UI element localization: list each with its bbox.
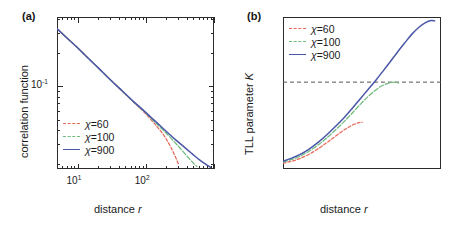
- axis-tick: [57, 97, 60, 98]
- panel-b-xaxis-title-var: r: [364, 203, 368, 215]
- axis-tick: [199, 166, 200, 169]
- axis-tick: [57, 91, 60, 92]
- legend-label-value: =900: [317, 49, 341, 61]
- axis-tick: [203, 17, 204, 20]
- axis-tick: [211, 53, 214, 54]
- legend-label-value: =900: [91, 144, 115, 156]
- y-tick-mantissa: 10: [31, 79, 42, 90]
- axis-tick: [74, 166, 75, 169]
- axis-tick: [57, 86, 63, 87]
- axis-tick: [57, 103, 60, 104]
- axis-tick: [166, 17, 167, 20]
- axis-tick: [62, 166, 63, 169]
- legend-label-value: =60: [91, 118, 109, 130]
- axis-tick: [139, 166, 140, 169]
- axis-tick: [178, 17, 179, 20]
- axis-tick: [209, 86, 215, 87]
- panel-b-yaxis-title-text: TLL parameter: [243, 80, 255, 155]
- axis-tick: [143, 166, 144, 169]
- axis-tick: [57, 111, 60, 112]
- panel-b-legend: χ=60χ=100χ=900: [289, 22, 340, 61]
- axis-tick: [98, 17, 99, 20]
- axis-tick: [211, 19, 214, 20]
- x-tick-mantissa: 10: [67, 175, 78, 186]
- panel-b-letter: (b): [247, 10, 261, 22]
- panel-a: (a) 10110210-1 distance r correlation fu…: [0, 0, 227, 226]
- panel-a-xaxis-title: distance r: [94, 203, 142, 215]
- legend-item[interactable]: χ=100: [63, 130, 114, 143]
- legend-item[interactable]: χ=100: [289, 35, 340, 48]
- y-tick-label: 10-1: [31, 79, 48, 90]
- axis-tick: [143, 17, 144, 20]
- axis-tick: [131, 166, 132, 169]
- axis-tick: [71, 166, 72, 169]
- legend-color-swatch: [63, 136, 80, 137]
- legend-item[interactable]: χ=60: [289, 22, 340, 35]
- axis-tick: [125, 17, 126, 20]
- figure-root: (a) 10110210-1 distance r correlation fu…: [0, 0, 454, 226]
- legend-item[interactable]: χ=900: [63, 143, 114, 156]
- panel-b-xaxis-title-text: distance: [320, 203, 364, 215]
- axis-tick: [74, 17, 75, 20]
- legend-label: χ=100: [311, 36, 340, 48]
- axis-tick: [193, 166, 194, 169]
- legend-label-value: =100: [317, 36, 341, 48]
- axis-tick: [57, 19, 60, 20]
- axis-tick: [214, 17, 215, 23]
- panel-a-xaxis-title-text: distance: [94, 203, 138, 215]
- legend-label-value: =60: [317, 23, 335, 35]
- axis-tick: [199, 17, 200, 20]
- axis-tick: [203, 166, 204, 169]
- legend-color-swatch: [289, 41, 306, 42]
- legend-label-value: =100: [91, 131, 115, 143]
- axis-tick: [211, 120, 214, 121]
- axis-tick: [110, 17, 111, 20]
- panel-a-yaxis-title-text: correlation function: [18, 65, 30, 158]
- axis-tick: [125, 166, 126, 169]
- legend-label: χ=100: [85, 131, 114, 143]
- legend-label: χ=900: [311, 49, 340, 61]
- axis-tick: [187, 166, 188, 169]
- axis-tick: [71, 17, 72, 20]
- panel-a-legend: χ=60χ=100χ=900: [63, 117, 114, 156]
- axis-tick: [193, 17, 194, 20]
- axis-tick: [211, 97, 214, 98]
- axis-tick: [131, 17, 132, 20]
- axis-tick: [211, 91, 214, 92]
- axis-tick: [78, 17, 79, 23]
- axis-tick: [57, 33, 60, 34]
- panel-b: (b) 1011021.81.92.02.1 distance r TLL pa…: [227, 0, 454, 226]
- legend-color-swatch: [289, 54, 306, 55]
- axis-tick: [146, 164, 147, 170]
- axis-tick: [57, 53, 60, 54]
- legend-label: χ=60: [311, 23, 335, 35]
- legend-item[interactable]: χ=900: [289, 48, 340, 61]
- panel-a-letter: (a): [22, 10, 35, 22]
- axis-tick: [110, 166, 111, 169]
- axis-tick: [214, 164, 215, 170]
- axis-tick: [187, 17, 188, 20]
- x-tick-exponent: 2: [146, 174, 150, 181]
- axis-tick: [62, 17, 63, 20]
- axis-tick: [57, 130, 60, 131]
- axis-tick: [211, 103, 214, 104]
- panel-b-yaxis-title: TLL parameter K: [243, 73, 255, 155]
- axis-tick: [211, 130, 214, 131]
- legend-label: χ=900: [85, 144, 114, 156]
- x-tick-mantissa: 10: [135, 175, 146, 186]
- axis-tick: [139, 17, 140, 20]
- axis-tick: [211, 164, 214, 165]
- panel-a-yaxis-title: correlation function: [18, 65, 30, 158]
- axis-tick: [211, 33, 214, 34]
- axis-tick: [119, 17, 120, 20]
- legend-item[interactable]: χ=60: [63, 117, 114, 130]
- axis-tick: [57, 144, 60, 145]
- legend-color-swatch: [63, 123, 80, 124]
- axis-tick: [67, 166, 68, 169]
- x-tick-label: 101: [67, 175, 82, 186]
- axis-tick: [207, 17, 208, 20]
- x-tick-exponent: 1: [78, 174, 82, 181]
- legend-label: χ=60: [85, 118, 109, 130]
- axis-tick: [178, 166, 179, 169]
- y-tick-exponent: -1: [42, 78, 48, 85]
